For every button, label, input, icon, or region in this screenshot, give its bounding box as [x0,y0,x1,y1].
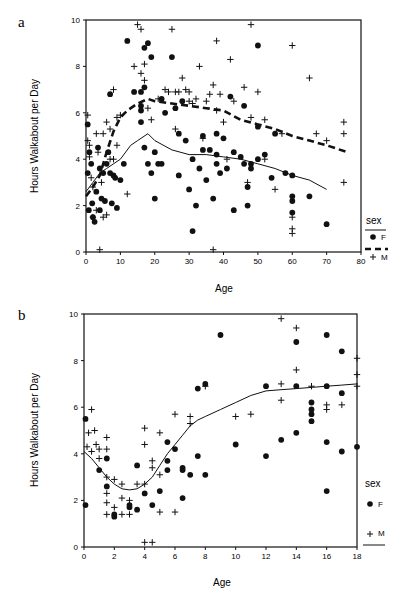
point-female [152,149,158,155]
point-female [324,383,330,389]
chart-panel-a: a Hours Walkabout per Day Age 0102030405… [18,14,388,294]
point-male [341,119,347,125]
point-male [169,26,175,32]
point-male [96,446,102,452]
point-male [104,490,110,496]
point-female [86,207,92,213]
x-tick-label: 80 [357,257,366,266]
point-female [142,145,148,151]
point-female [203,177,209,183]
point-female [339,390,345,396]
point-female [241,161,247,167]
point-female [190,228,196,234]
point-male [119,481,125,487]
point-female [114,205,120,211]
point-male [148,117,154,123]
x-tick-label: 6 [173,552,178,561]
point-male [262,156,268,162]
point-male [176,89,182,95]
point-female [324,488,330,494]
point-male [100,130,106,136]
point-male [126,511,132,517]
smooth-line-smooth [84,384,357,490]
y-axis-title-a: Hours Walkabout per Day [29,79,40,193]
point-male [313,130,319,136]
point-female [97,166,103,172]
point-female [96,467,102,473]
point-female [324,332,330,338]
x-tick-label: 0 [82,552,87,561]
point-male [210,82,216,88]
x-tick-label: 0 [84,257,89,266]
point-female [309,418,315,424]
point-female [104,161,110,167]
legend-marker-m-b [367,531,373,537]
x-tick-label: 50 [253,257,262,266]
point-male [339,402,345,408]
point-male [141,425,147,431]
legend-label-m-b: M [378,529,385,538]
point-female [112,175,118,181]
x-tick-label: 16 [322,552,331,561]
x-tick-label: 10 [231,552,240,561]
chart-panel-b: b Hours Walkabout per Day Age 0246810121… [18,307,385,588]
x-tick-label: 30 [185,257,194,266]
point-female [245,203,251,209]
point-male [110,156,116,162]
point-female [169,54,175,60]
data-points-b [83,315,361,545]
point-female [176,173,182,179]
x-axis-title-b: Age [213,577,231,588]
point-male [86,154,92,160]
point-male [149,539,155,545]
point-female [105,149,111,155]
point-female [200,147,206,153]
point-female [263,453,269,459]
point-female [214,152,220,158]
point-female [309,400,315,406]
point-male [88,448,94,454]
point-male [104,434,110,440]
point-male [354,355,360,361]
point-female [207,147,213,153]
point-male [213,38,219,44]
point-female [145,161,151,167]
point-female [224,166,230,172]
point-female [283,170,289,176]
point-female [149,502,155,508]
y-tick-label: 6 [76,109,81,118]
legend-title-a: sex [366,215,382,226]
point-male [203,98,209,104]
point-male [179,75,185,81]
point-female [202,472,208,478]
point-female [263,383,269,389]
point-female [109,200,115,206]
point-male [149,465,155,471]
point-female [148,170,154,176]
point-female [217,170,223,176]
y-tick-label: 4 [74,450,79,459]
point-female [339,348,345,354]
point-female [142,491,148,497]
point-male [187,413,193,419]
x-axis-title-a: Age [215,283,233,294]
point-female [152,196,158,202]
point-female [134,463,140,469]
point-male [157,430,163,436]
panel-label-b: b [18,307,26,323]
point-male [289,230,295,236]
point-female [165,458,171,464]
point-male [119,495,125,501]
point-female [218,332,224,338]
point-male [85,430,91,436]
x-tick-label: 12 [262,552,271,561]
point-male [341,130,347,136]
point-female [197,166,203,172]
y-tick-label: 2 [74,496,79,505]
point-male [157,509,163,515]
point-male [244,179,250,185]
point-male [86,142,92,148]
point-female [289,173,295,179]
point-female [231,207,237,213]
point-female [195,453,201,459]
